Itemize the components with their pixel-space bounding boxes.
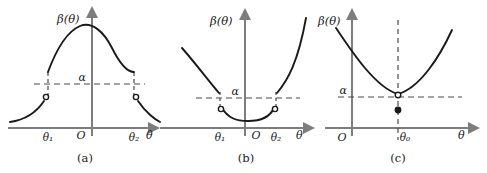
panel-c-alpha-label: α — [340, 84, 348, 97]
panel-b-y-axis-label: β(θ) — [209, 14, 233, 28]
panel-b-x-axis-label: θ — [296, 129, 303, 142]
panel-c-filled-point — [395, 107, 401, 113]
panel-b-caption: (b) — [238, 151, 254, 165]
panel-b-alpha-label: α — [232, 85, 240, 98]
panel-b-tick-theta1: θ₁ — [215, 131, 226, 143]
panel-a-tick-theta1: θ₁ — [43, 131, 54, 143]
panel-c-origin-label: O — [337, 131, 346, 144]
panel-a-x-axis-label: θ — [146, 129, 153, 142]
panel-a-origin-label: O — [76, 129, 85, 142]
panel-b-open-circle-theta1 — [218, 106, 223, 111]
panel-b-tick-theta2: θ₂ — [271, 131, 282, 143]
panel-c-y-axis-label: β(θ) — [317, 14, 341, 28]
panel-a-open-circle-theta2 — [133, 94, 138, 99]
panel-c-tick-theta0: θ₀ — [400, 131, 411, 143]
panel-b-origin-label: O — [251, 129, 260, 142]
panel-a-alpha-label: α — [79, 71, 87, 84]
panel-a-caption: (a) — [77, 151, 93, 165]
panel-c-open-circle-vertex — [395, 92, 401, 98]
panel-a-open-circle-theta1 — [43, 94, 48, 99]
panel-b-open-circle-theta2 — [272, 106, 277, 111]
figure-svg: β(θ) θ O θ₁ θ₂ α (a) β(θ) θ O θ₁ θ₂ α (b… — [0, 0, 487, 173]
panel-c-x-axis-label: θ — [458, 129, 465, 142]
panel-c-caption: (c) — [390, 151, 405, 165]
panel-a-tick-theta2: θ₂ — [129, 131, 140, 143]
panel-a-y-axis-label: β(θ) — [56, 12, 80, 26]
power-function-figure: β(θ) θ O θ₁ θ₂ α (a) β(θ) θ O θ₁ θ₂ α (b… — [0, 0, 487, 173]
